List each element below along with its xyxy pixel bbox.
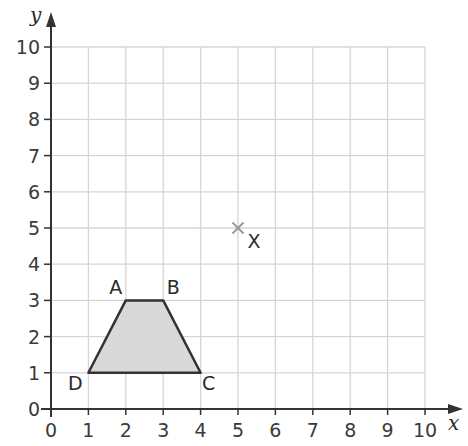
- vertex-label-a: A: [109, 276, 122, 298]
- y-tick-label: 1: [28, 362, 40, 384]
- y-tick-label: 8: [28, 108, 40, 130]
- vertex-label-d: D: [68, 372, 83, 394]
- y-tick-label: 4: [28, 253, 40, 275]
- point-label-x: X: [247, 230, 260, 252]
- y-tick-label: 9: [28, 72, 40, 94]
- x-tick-label: 3: [157, 419, 169, 441]
- x-tick-label: 0: [45, 419, 57, 441]
- x-tick-label: 9: [382, 419, 394, 441]
- x-tick-label: 7: [307, 419, 319, 441]
- x-tick-label: 4: [195, 419, 207, 441]
- y-tick-label: 3: [28, 289, 40, 311]
- vertex-label-b: B: [167, 276, 180, 298]
- x-axis-label: x: [448, 411, 459, 435]
- y-axis-label: y: [29, 3, 42, 27]
- y-tick-label: 5: [28, 217, 40, 239]
- coordinate-grid: yx 012345678910012345678910 ABCD X: [0, 0, 468, 446]
- y-tick-label: 0: [28, 398, 40, 420]
- x-tick-label: 10: [413, 419, 437, 441]
- y-tick-label: 6: [28, 181, 40, 203]
- y-axis-arrow-icon: [46, 12, 56, 27]
- x-tick-label: 2: [120, 419, 132, 441]
- x-tick-label: 1: [82, 419, 94, 441]
- x-tick-label: 6: [269, 419, 281, 441]
- x-tick-label: 8: [344, 419, 356, 441]
- vertex-label-c: C: [202, 372, 215, 394]
- x-tick-label: 5: [232, 419, 244, 441]
- y-tick-label: 2: [28, 326, 40, 348]
- y-tick-label: 7: [28, 145, 40, 167]
- point-x-marker: X: [233, 223, 261, 253]
- y-tick-label: 10: [16, 36, 40, 58]
